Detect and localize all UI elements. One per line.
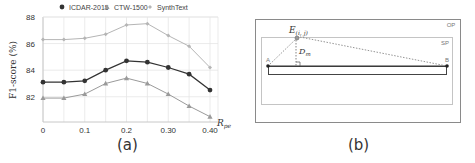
y-tick-label: 82 (26, 93, 35, 102)
x-tick-label: 0.40 (202, 126, 218, 135)
point-e-label: E(i, j) (288, 25, 309, 37)
data-point-triangle (82, 91, 87, 96)
legend-label: ICDAR-2015 (69, 4, 109, 11)
inner-box-sp (262, 38, 453, 105)
data-point-diamond (148, 5, 152, 9)
point-a (266, 64, 270, 68)
x-tick-label: 0.1 (79, 126, 91, 135)
legend-label: SynthText (157, 4, 188, 12)
point-a-label: A (266, 57, 270, 63)
line-chart-panel-a: ICDAR-2015CTW-1500SynthText 8284868800.1… (8, 4, 232, 136)
data-point-triangle (124, 76, 129, 81)
x-tick-label: 0.2 (121, 126, 133, 135)
data-point-circle (145, 60, 150, 65)
caption-a: (a) (117, 136, 138, 154)
point-b (445, 64, 449, 68)
outer-box-label: OP (447, 22, 456, 28)
data-point-triangle (187, 103, 192, 108)
dashed-line-eb (300, 37, 447, 66)
data-point-circle (166, 65, 171, 70)
data-point-circle (60, 5, 65, 10)
data-point-circle (103, 68, 108, 73)
data-point-triangle (207, 114, 212, 119)
inner-box-label: SP (441, 40, 449, 46)
data-point-diamond (145, 22, 149, 26)
data-point-diamond (62, 38, 66, 42)
caption-b: (b) (348, 136, 369, 154)
data-point-circle (187, 72, 192, 77)
data-point-circle (208, 88, 213, 93)
legend-item-icdar-2015: ICDAR-2015 (60, 4, 109, 11)
x-tick-label: 0.30 (160, 126, 176, 135)
figure: ICDAR-2015CTW-1500SynthText 8284868800.1… (0, 0, 475, 163)
point-b-label: B (445, 57, 449, 63)
data-point-circle (82, 78, 87, 83)
x-tick-label: 0 (41, 126, 46, 135)
diagram-panel-b: OP SP E(i, j) Dm A B (256, 20, 461, 123)
bar-segment-ab (269, 67, 447, 75)
data-point-triangle (166, 91, 171, 96)
y-tick-label: 86 (26, 40, 35, 49)
legend: ICDAR-2015CTW-1500SynthText (60, 4, 188, 12)
legend-label: CTW-1500 (114, 4, 148, 11)
distance-dm-label: Dm (298, 47, 311, 57)
grid-lines (43, 17, 218, 122)
data-point-diamond (125, 23, 129, 27)
point-e (295, 36, 299, 40)
y-tick-label: 84 (26, 66, 35, 75)
outer-box-op (256, 20, 461, 123)
data-point-diamond (166, 34, 170, 38)
data-point-circle (41, 80, 46, 85)
x-axis-label: Rpe (216, 118, 232, 130)
y-tick-label: 88 (26, 13, 35, 22)
data-point-circle (61, 80, 66, 85)
legend-item-synthtext: SynthText (148, 4, 188, 12)
data-point-diamond (83, 36, 87, 40)
legend-item-ctw-1500: CTW-1500 (104, 4, 147, 11)
data-point-diamond (104, 32, 108, 36)
data-point-diamond (41, 38, 45, 42)
dashed-line-ea (268, 38, 297, 66)
data-point-circle (124, 58, 129, 63)
y-axis-label: F1-score (%) (8, 41, 18, 99)
axes (43, 17, 218, 122)
